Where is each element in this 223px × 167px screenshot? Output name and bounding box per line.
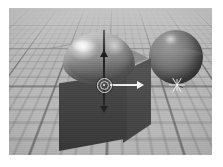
gizmo-axis-x-handle[interactable] bbox=[110, 84, 140, 86]
pivot-marker-stroke-d bbox=[177, 79, 178, 91]
gizmo-axis-y-arrow-icon[interactable] bbox=[100, 50, 108, 57]
grid-label: Ground Grid bbox=[0, 0, 1, 1]
shading-label: Smooth Shaded bbox=[0, 0, 1, 1]
screenshot-root: 3D Viewport Perspective Smooth Shaded Tr… bbox=[0, 0, 223, 167]
manipulator-label: Transform Manipulator bbox=[0, 0, 1, 1]
object-label-sphere-left: Sphere (embedded) bbox=[0, 0, 1, 1]
object-label-cube: Cube bbox=[0, 0, 1, 1]
viewport-3d[interactable] bbox=[9, 8, 212, 155]
pivot-marker-icon[interactable] bbox=[167, 76, 187, 94]
object-label-sphere-right: Sphere bbox=[0, 0, 1, 1]
gizmo-axis-x-arrow-icon[interactable] bbox=[137, 81, 144, 89]
gizmo-center-ring-inner-icon[interactable] bbox=[100, 81, 109, 90]
viewport-title: 3D Viewport bbox=[0, 0, 1, 1]
gizmo-axis-z-arrow-icon[interactable] bbox=[100, 106, 108, 113]
transform-manipulator[interactable] bbox=[79, 56, 143, 112]
sphere-terminator-band bbox=[150, 49, 202, 58]
gizmo-center-dot-icon[interactable] bbox=[103, 84, 105, 86]
sphere-specular-highlight bbox=[73, 40, 95, 52]
view-label: Perspective bbox=[0, 0, 1, 1]
gizmo-axis-y-handle[interactable] bbox=[103, 54, 105, 80]
pivot-marker-label: Pivot Marker bbox=[0, 0, 1, 1]
